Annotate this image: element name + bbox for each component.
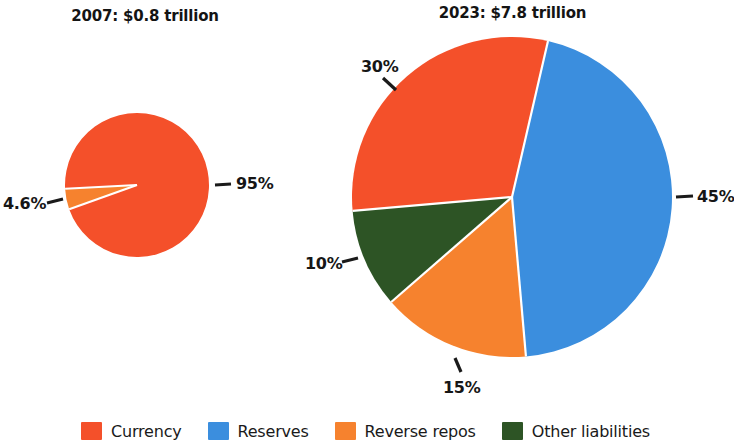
- pie-chart-2007: [65, 113, 209, 257]
- legend-label-other-liabilities: Other liabilities: [532, 422, 650, 441]
- legend-label-currency: Currency: [111, 422, 182, 441]
- legend-item-other-liabilities[interactable]: Other liabilities: [502, 422, 650, 441]
- pie-label-reverse-repos-2007: 4.6%: [3, 194, 46, 213]
- legend-label-reserves: Reserves: [238, 422, 309, 441]
- pie-label-reserves-2023: 45%: [697, 187, 734, 206]
- leader-line-10: [342, 258, 358, 262]
- legend-swatch-reverse-repos-icon: [335, 422, 356, 440]
- pie-label-reverse-repos-2023: 15%: [443, 378, 480, 397]
- leader-line-30: [383, 78, 396, 90]
- legend-label-reverse-repos: Reverse repos: [365, 422, 476, 441]
- legend-swatch-other-liabilities-icon: [502, 422, 523, 440]
- leader-line-45: [676, 196, 693, 197]
- legend-swatch-currency-icon: [81, 422, 102, 440]
- leader-line-95: [215, 184, 231, 185]
- leader-line-46: [47, 199, 63, 203]
- legend-item-reserves[interactable]: Reserves: [208, 422, 309, 441]
- pie-slice-currency-2007[interactable]: [65, 113, 209, 257]
- legend-item-currency[interactable]: Currency: [81, 422, 182, 441]
- leader-line-15: [455, 358, 461, 372]
- pie-label-other-liabilities-2023: 10%: [305, 254, 342, 273]
- chart-legend: Currency Reserves Reverse repos Other li…: [0, 418, 731, 444]
- pie-label-currency-2023: 30%: [361, 57, 398, 76]
- pie-chart-2023: [352, 37, 672, 357]
- legend-swatch-reserves-icon: [208, 422, 229, 440]
- legend-item-reverse-repos[interactable]: Reverse repos: [335, 422, 476, 441]
- pie-label-currency-2007: 95%: [236, 174, 273, 193]
